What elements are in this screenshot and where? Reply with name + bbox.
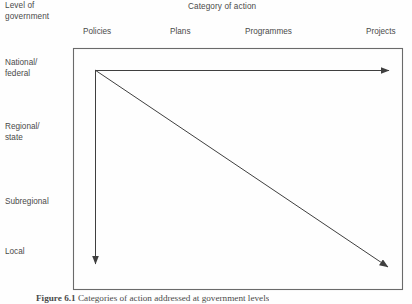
matrix-frame [74,49,403,290]
figure-caption-text: Categories of action addressed at govern… [78,293,269,303]
figure-caption: Figure 6.1 Categories of action addresse… [36,293,269,303]
diagonal-arrow [95,70,388,267]
figure-container: Level of government Category of action P… [0,0,412,304]
figure-caption-number: Figure 6.1 [36,293,76,303]
diagram-graphics [0,0,412,304]
